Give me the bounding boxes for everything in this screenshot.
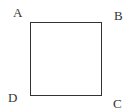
vertex-label-c: C: [113, 97, 122, 110]
vertex-label-b: B: [114, 9, 123, 22]
square-abcd: [30, 22, 102, 96]
vertex-label-a: A: [13, 6, 22, 19]
vertex-label-d: D: [8, 91, 17, 104]
